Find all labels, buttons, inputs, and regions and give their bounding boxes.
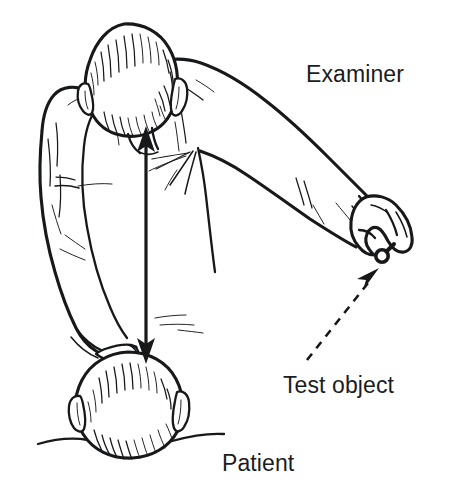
test-object-leader-arrowhead	[357, 268, 379, 290]
test-object-hand-group	[351, 196, 412, 262]
test-object-leader-arrow	[307, 268, 379, 360]
examiner-right-arm-lower	[200, 151, 356, 247]
patient-shoulder-right	[172, 434, 224, 441]
patient-skull	[75, 352, 183, 458]
examiner-armpit-creases	[149, 151, 196, 194]
examiner-right-ear	[171, 78, 187, 115]
label-patient: Patient	[222, 452, 294, 475]
test-object-head	[376, 250, 388, 262]
patient-figure	[38, 352, 224, 459]
examiner-hem-strokes	[155, 315, 203, 333]
examiner-collar-fold	[139, 152, 158, 154]
gaze-axis-arrow	[137, 126, 155, 364]
examiner-torso-side	[198, 148, 215, 272]
examiner-skull	[85, 24, 177, 136]
patient-right-ear	[173, 391, 189, 431]
patient-shoulder-left	[38, 439, 88, 444]
label-test-object: Test object	[283, 374, 394, 397]
patient-left-ear	[69, 396, 85, 432]
test-object-leader-shaft	[307, 283, 368, 360]
illustration-figure: Examiner Test object Patient	[0, 0, 456, 495]
label-examiner: Examiner	[306, 63, 404, 86]
examiner-right-arm-folds	[296, 178, 350, 224]
